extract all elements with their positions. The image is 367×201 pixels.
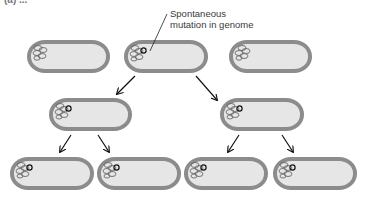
arrow-down-left-icon [60,135,71,152]
arrow-down-right-icon [98,135,109,152]
arrows-layer [0,0,367,201]
arrow-down-right-icon [196,76,217,100]
mutation-inheritance-diagram: (a) ... Spontaneous mutation in genome [0,0,367,201]
annotation-leader-line [150,14,167,51]
arrow-down-left-icon [117,76,135,94]
arrow-down-left-icon [228,135,239,152]
arrow-down-right-icon [282,135,293,152]
